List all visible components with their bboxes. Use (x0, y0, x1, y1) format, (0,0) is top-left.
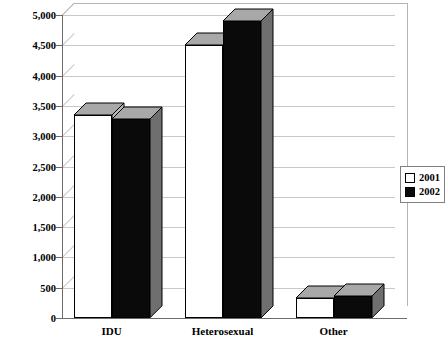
y-axis-tick-label: 3,500 (4, 100, 56, 111)
legend-label-2002: 2002 (419, 187, 440, 197)
bar-other-2002 (334, 296, 372, 318)
bar-idu-2002 (112, 119, 150, 318)
y-axis: 05001,0001,5002,0002,5003,0003,5004,0004… (0, 0, 56, 354)
plot-back-wall-top (74, 3, 407, 4)
bar-idu-2001 (74, 115, 112, 318)
y-axis-tick-label: 4,000 (4, 70, 56, 81)
y-axis-tick-label: 0 (4, 313, 56, 324)
y-axis-tick-label: 2,000 (4, 191, 56, 202)
y-axis-tick-label: 1,500 (4, 222, 56, 233)
bar-front-face (334, 296, 372, 318)
legend-label-2001: 2001 (419, 173, 440, 183)
y-axis-line (62, 15, 63, 318)
bar-front-face (74, 115, 112, 318)
plot-back-wall-right (407, 3, 408, 306)
bar-front-face (112, 119, 150, 318)
bar-heterosexual-2001 (185, 45, 223, 318)
y-axis-tick-label: 2,500 (4, 161, 56, 172)
y-axis-tick-label: 1,000 (4, 252, 56, 263)
y-axis-tick-label: 4,500 (4, 40, 56, 51)
x-axis-line (62, 318, 407, 319)
bar-heterosexual-2002 (223, 21, 261, 318)
legend-item-2001: 2001 (405, 171, 440, 184)
x-axis-category-label: Heterosexual (160, 325, 286, 337)
y-axis-tick-label: 5,000 (4, 10, 56, 21)
y-axis-tick-label: 500 (4, 282, 56, 293)
bar-chart: 05001,0001,5002,0002,5003,0003,5004,0004… (0, 0, 447, 354)
hollow-square-icon (405, 173, 415, 183)
legend-item-2002: 2002 (405, 185, 440, 198)
bar-front-face (296, 298, 334, 318)
filled-square-icon (405, 187, 415, 197)
bar-front-face (223, 21, 261, 318)
bar-front-face (185, 45, 223, 318)
legend: 2001 2002 (400, 166, 445, 203)
x-axis-category-label: Other (271, 325, 397, 337)
y-axis-tick-label: 3,000 (4, 131, 56, 142)
x-axis-category-label: IDU (49, 325, 175, 337)
bar-other-2001 (296, 298, 334, 318)
